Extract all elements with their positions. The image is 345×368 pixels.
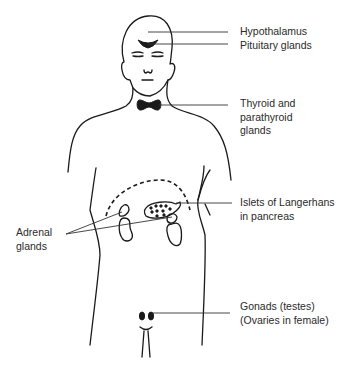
gonads	[139, 312, 153, 357]
label-gonads: Gonads (testes) (Ovaries in female)	[240, 300, 329, 327]
body-outline	[68, 80, 231, 345]
kidneys	[119, 218, 181, 246]
label-islets-line-2: in pancreas	[240, 210, 335, 224]
label-thyroid-line-3: glands	[240, 124, 295, 138]
label-islets-line-1: Islets of Langerhans	[240, 196, 335, 210]
leader-adrenal-1	[66, 212, 122, 234]
label-thyroid: Thyroid and parathyroid glands	[240, 97, 295, 138]
label-gonads-line-2: (Ovaries in female)	[240, 314, 329, 328]
leader-lines	[66, 32, 232, 313]
label-thyroid-line-1: Thyroid and	[240, 97, 295, 111]
label-adrenal-line-2: glands	[16, 240, 52, 254]
label-hypothalamus: Hypothalamus	[240, 25, 307, 39]
label-pituitary: Pituitary glands	[240, 39, 312, 53]
label-adrenal-line-1: Adrenal	[16, 226, 52, 240]
label-adrenal: Adrenal glands	[16, 226, 52, 253]
label-gonads-line-1: Gonads (testes)	[240, 300, 329, 314]
label-thyroid-line-2: parathyroid	[240, 111, 295, 125]
thyroid-gland	[137, 100, 161, 110]
label-islets: Islets of Langerhans in pancreas	[240, 196, 335, 223]
label-hypothalamus-line-1: Hypothalamus	[240, 25, 307, 39]
pancreas-islets	[145, 202, 181, 218]
label-pituitary-line-1: Pituitary glands	[240, 39, 312, 53]
